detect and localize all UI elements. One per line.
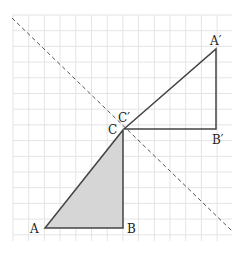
diagram-canvas: A B C C′ B′ A′ [0,0,243,255]
label-c: C [108,123,117,137]
label-b: B [127,222,136,236]
label-a-prime: A′ [209,34,222,48]
triangle-abc [45,130,123,228]
label-a: A [29,222,39,236]
label-c-prime: C′ [118,111,130,125]
label-b-prime: B′ [212,133,224,147]
